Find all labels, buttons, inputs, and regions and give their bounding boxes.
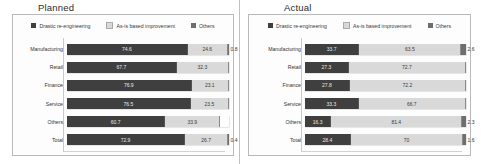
category-label: Service xyxy=(249,101,305,107)
bar-segment-drastic: 60.7 xyxy=(67,116,165,127)
stacked-bar: 27.872.2 xyxy=(305,80,466,91)
bar-segment-asis: 72.2 xyxy=(350,80,466,91)
bar-value-label: 28.4 xyxy=(322,137,332,143)
bar-row: Others60.733.9 xyxy=(13,116,229,127)
bar-value-label: 74.6 xyxy=(122,46,132,52)
legend-item-drastic: Drastic re-engineering xyxy=(268,23,327,29)
bar-segment-asis: 24.6 xyxy=(188,44,228,55)
legend-item-asis: As-is based improvement xyxy=(343,22,412,29)
stacked-bar: 72.926.70.4 xyxy=(67,134,229,145)
bar-segment-others xyxy=(228,44,229,55)
bar-value-label-others: 2.3 xyxy=(468,119,475,125)
bar-rows-actual: Manufacturing33.763.52.6Retail27.372.7Fi… xyxy=(249,40,466,149)
bar-segment-drastic: 72.9 xyxy=(67,134,185,145)
bar-row: Retail27.372.7 xyxy=(249,62,466,73)
bar-value-label: 27.3 xyxy=(322,64,332,70)
legend-label-asis: As-is based improvement xyxy=(116,23,175,29)
x-axis-line xyxy=(63,151,225,152)
bar-segment-asis: 72.7 xyxy=(349,62,466,73)
legend-planned: Drastic re-engineering As-is based impro… xyxy=(13,22,233,29)
category-label: Finance xyxy=(249,82,305,88)
bar-value-label-others: 1.6 xyxy=(468,137,475,143)
bar-value-label: 16.3 xyxy=(313,119,323,125)
bar-value-label: 63.5 xyxy=(405,46,415,52)
stacked-bar: 28.4701.6 xyxy=(305,134,466,145)
bar-segment-drastic: 27.8 xyxy=(305,80,350,91)
bar-rows-planned: Manufacturing74.624.60.8Retail67.732.3Fi… xyxy=(13,40,229,149)
bar-value-label: 81.4 xyxy=(391,119,401,125)
bar-value-label: 27.8 xyxy=(322,82,332,88)
bar-row: Total72.926.70.4 xyxy=(13,134,229,145)
category-label: Others xyxy=(249,119,305,125)
bar-segment-asis: 63.5 xyxy=(359,44,461,55)
bar-row: Finance27.872.2 xyxy=(249,80,466,91)
bar-segment-asis: 26.7 xyxy=(185,134,228,145)
bar-value-label: 33.3 xyxy=(326,101,336,107)
bar-value-label-others: 0.4 xyxy=(231,137,238,143)
chart-panel-planned: Planned Drastic re-engineering As-is bas… xyxy=(0,0,240,164)
stacked-bar: 76.523.5 xyxy=(67,98,229,109)
stacked-bar: 33.366.7 xyxy=(305,98,466,109)
chart-panel-actual: Actual Drastic re-engineering As-is base… xyxy=(240,0,481,164)
panel-divider xyxy=(239,0,240,164)
category-label: Service xyxy=(13,101,67,107)
bar-segment-others xyxy=(463,134,466,145)
bar-segment-asis: 81.4 xyxy=(331,116,462,127)
bar-segment-asis: 32.3 xyxy=(177,62,229,73)
bar-segment-drastic: 28.4 xyxy=(305,134,351,145)
bar-value-label-others: 0.8 xyxy=(231,46,238,52)
bar-value-label: 70 xyxy=(404,137,410,143)
bar-row: Service33.366.7 xyxy=(249,98,466,109)
page-title-planned: Planned xyxy=(38,2,74,13)
legend-label-drastic: Drastic re-engineering xyxy=(276,23,327,29)
legend-swatch-drastic-icon xyxy=(31,23,36,28)
bar-segment-asis: 23.1 xyxy=(192,80,229,91)
bar-segment-drastic: 27.3 xyxy=(305,62,349,73)
bar-value-label: 76.9 xyxy=(124,82,134,88)
bar-segment-asis: 23.5 xyxy=(191,98,229,109)
bar-segment-others xyxy=(462,116,466,127)
stacked-bar: 74.624.60.8 xyxy=(67,44,229,55)
bar-segment-asis: 70 xyxy=(351,134,464,145)
bar-segment-drastic: 67.7 xyxy=(67,62,177,73)
legend-swatch-others-icon xyxy=(428,23,433,28)
bar-value-label: 33.9 xyxy=(187,119,197,125)
category-label: Manufacturing xyxy=(249,46,305,52)
stacked-bar: 16.381.42.3 xyxy=(305,116,466,127)
plot-area-actual: Manufacturing33.763.52.6Retail27.372.7Fi… xyxy=(249,40,466,149)
bar-value-label: 72.2 xyxy=(403,82,413,88)
legend-swatch-others-icon xyxy=(191,23,196,28)
bar-value-label-others: 2.6 xyxy=(468,46,475,52)
bar-row: Others16.381.42.3 xyxy=(249,116,466,127)
bar-row: Service76.523.5 xyxy=(13,98,229,109)
bar-value-label: 23.5 xyxy=(205,101,215,107)
category-label: Finance xyxy=(13,82,67,88)
bar-segment-asis: 66.7 xyxy=(359,98,466,109)
legend-label-drastic: Drastic re-engineering xyxy=(39,23,90,29)
legend-swatch-asis-icon xyxy=(343,22,350,29)
bar-row: Finance76.923.1 xyxy=(13,80,229,91)
stacked-bar: 67.732.3 xyxy=(67,62,229,73)
x-axis-line xyxy=(301,151,462,152)
bar-value-label: 76.5 xyxy=(124,101,134,107)
category-label: Retail xyxy=(13,64,67,70)
legend-swatch-asis-icon xyxy=(106,22,113,29)
bar-segment-drastic: 16.3 xyxy=(305,116,331,127)
page-title-actual: Actual xyxy=(284,2,312,13)
legend-label-others: Others xyxy=(199,23,215,29)
bar-value-label: 72.9 xyxy=(121,137,131,143)
plot-area-planned: Manufacturing74.624.60.8Retail67.732.3Fi… xyxy=(13,40,229,149)
stacked-bar: 33.763.52.6 xyxy=(305,44,466,55)
bar-row: Total28.4701.6 xyxy=(249,134,466,145)
legend-item-drastic: Drastic re-engineering xyxy=(31,23,90,29)
bar-segment-drastic: 76.5 xyxy=(67,98,191,109)
dual-chart-container: Planned Drastic re-engineering As-is bas… xyxy=(0,0,481,164)
category-label: Total xyxy=(249,137,305,143)
legend-swatch-drastic-icon xyxy=(268,23,273,28)
bar-row: Retail67.732.3 xyxy=(13,62,229,73)
stacked-bar: 27.372.7 xyxy=(305,62,466,73)
stacked-bar: 76.923.1 xyxy=(67,80,229,91)
bar-value-label: 60.7 xyxy=(111,119,121,125)
legend-actual: Drastic re-engineering As-is based impro… xyxy=(249,22,470,29)
category-label: Retail xyxy=(249,64,305,70)
